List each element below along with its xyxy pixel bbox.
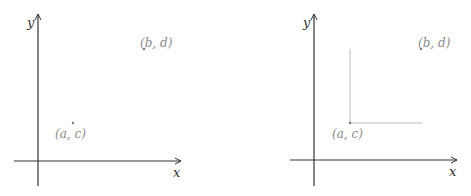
left-point-ac (72, 122, 74, 124)
right-point-ac (349, 122, 351, 124)
right-x-axis-label: x (449, 164, 457, 179)
left-y-axis-label: y (26, 15, 35, 30)
left-panel: y x (a, c) (b, d) (14, 14, 181, 186)
right-y-axis-label: y (302, 15, 311, 30)
left-point-ac-label: (a, c) (55, 127, 86, 141)
right-panel: y x (a, c) (b, d) (290, 14, 457, 186)
diagram-canvas: y x (a, c) (b, d) y x (a, c) (b, d) (0, 0, 471, 196)
right-point-bd-label: (b, d) (418, 36, 451, 50)
left-point-bd-label: (b, d) (140, 36, 173, 50)
right-point-ac-label: (a, c) (332, 127, 363, 141)
left-x-axis-label: x (173, 165, 181, 180)
